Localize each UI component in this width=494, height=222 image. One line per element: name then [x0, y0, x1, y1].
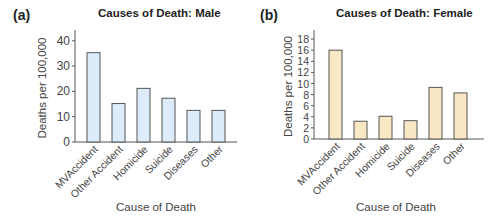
- female-chart-panel: (b) Causes of Death: Female 024681012141…: [247, 0, 494, 222]
- y-tick-label: 18: [297, 33, 309, 45]
- bar-mvaccident: [329, 50, 342, 139]
- bar-other: [454, 93, 467, 139]
- y-tick-label: 16: [297, 44, 309, 56]
- bar-other: [212, 110, 225, 142]
- y-tick-label: 8: [303, 89, 309, 101]
- bar-homicide: [137, 88, 150, 142]
- male-chart-panel: (a) Causes of Death: Male 010203040MVAcc…: [0, 0, 247, 222]
- bar-diseases: [429, 87, 442, 139]
- y-axis-title: Deaths per 100,000: [282, 36, 294, 137]
- bar-other-accident: [354, 121, 367, 139]
- y-tick-label: 0: [303, 133, 309, 145]
- male-bar-chart: 010203040MVAccidentOther AccidentHomicid…: [0, 0, 247, 222]
- y-tick-label: 2: [303, 122, 309, 134]
- y-tick-label: 30: [57, 59, 71, 73]
- category-label: Other: [440, 140, 467, 167]
- y-axis-title: Deaths per 100,000: [36, 37, 48, 138]
- female-bar-chart: 024681012141618MVAccidentOther AccidentH…: [247, 0, 494, 222]
- y-tick-label: 10: [297, 78, 309, 90]
- y-tick-label: 6: [303, 100, 309, 112]
- y-tick-label: 20: [57, 84, 71, 98]
- y-tick-label: 12: [297, 66, 309, 78]
- bar-other-accident: [112, 104, 125, 142]
- y-tick-label: 14: [297, 55, 309, 67]
- y-tick-label: 10: [57, 110, 71, 124]
- bar-homicide: [379, 116, 392, 139]
- y-tick-label: 0: [63, 135, 70, 149]
- bar-suicide: [404, 121, 417, 139]
- x-axis-title: Cause of Death: [356, 201, 436, 213]
- y-tick-label: 40: [57, 34, 71, 48]
- category-label: Other: [198, 143, 225, 170]
- x-axis-title: Cause of Death: [116, 201, 196, 213]
- y-tick-label: 4: [303, 111, 309, 123]
- bar-suicide: [162, 98, 175, 142]
- bar-diseases: [187, 110, 200, 142]
- bar-mvaccident: [87, 53, 100, 142]
